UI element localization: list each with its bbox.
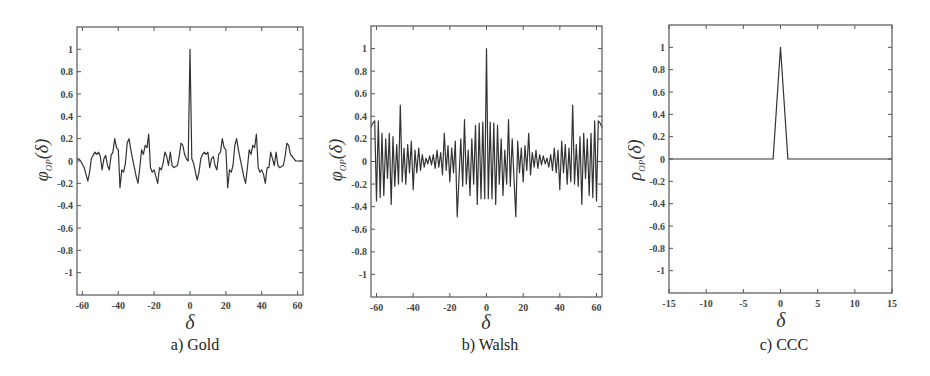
ccc-caption: c) CCC [760, 336, 808, 354]
x-tick-label: -40 [112, 300, 125, 311]
y-tick-label: -0.2 [57, 178, 73, 189]
y-tick-label: -1 [657, 265, 665, 276]
x-tick-label: -60 [76, 300, 89, 311]
y-tick-label: -0.8 [57, 245, 73, 256]
x-tick-label: -10 [699, 298, 712, 309]
y-tick-label: 1 [362, 43, 367, 54]
y-tick-label: 0.4 [61, 111, 74, 122]
x-tick-label: -60 [370, 302, 383, 313]
walsh-ylabel: φOP(δ) [326, 139, 348, 181]
walsh-curve [371, 49, 602, 217]
x-tick-label: -5 [739, 298, 747, 309]
y-tick-label: 0.8 [355, 66, 368, 77]
x-tick-label: 0 [778, 298, 783, 309]
y-tick-label: 0.6 [653, 87, 666, 98]
x-tick-label: 15 [887, 298, 897, 309]
ccc-ylabel: ρOP(δ) [625, 139, 647, 181]
gold-panel: -60-40-20020406010.80.60.40.20-0.2-0.4-0… [57, 27, 303, 311]
gold-xlabel: δ [185, 311, 195, 333]
y-tick-label: -0.6 [57, 223, 73, 234]
y-tick-label: -0.2 [351, 179, 367, 190]
y-tick-label: -1 [359, 269, 367, 280]
y-tick-label: -0.6 [649, 221, 665, 232]
y-tick-label: 1 [660, 42, 665, 53]
y-tick-label: -0.8 [351, 246, 367, 257]
x-tick-label: 40 [555, 302, 565, 313]
ccc-curve [669, 47, 892, 159]
y-tick-label: 1 [68, 44, 73, 55]
ccc-xlabel: δ [776, 309, 786, 331]
walsh-caption: b) Walsh [462, 336, 519, 354]
walsh-panel: -60-40-20020406010.80.60.40.20-0.2-0.4-0… [351, 26, 602, 313]
y-tick-label: -0.6 [351, 224, 367, 235]
gold-caption: a) Gold [171, 336, 219, 354]
x-tick-label: 20 [518, 302, 528, 313]
y-tick-label: 0.6 [61, 89, 74, 100]
y-tick-label: -0.4 [351, 201, 367, 212]
ccc-panel: -15-10-505101510.80.60.40.20-0.2-0.4-0.6… [649, 25, 897, 309]
x-tick-label: -40 [406, 302, 419, 313]
x-tick-label: 60 [293, 300, 303, 311]
y-tick-label: 0 [660, 154, 665, 165]
y-tick-label: -0.4 [57, 200, 73, 211]
x-tick-label: -20 [147, 300, 160, 311]
figure: -60-40-20020406010.80.60.40.20-0.2-0.4-0… [0, 0, 930, 376]
x-tick-label: 20 [221, 300, 231, 311]
y-tick-label: 0.4 [355, 111, 368, 122]
y-tick-label: 0.6 [355, 88, 368, 99]
gold-ylabel: φOP(δ) [32, 139, 54, 181]
x-tick-label: 0 [188, 300, 193, 311]
x-tick-label: -20 [443, 302, 456, 313]
y-tick-label: 0.2 [355, 133, 368, 144]
y-tick-label: 0 [68, 156, 73, 167]
y-tick-label: -1 [65, 267, 73, 278]
y-tick-label: 0 [362, 156, 367, 167]
x-tick-label: 40 [257, 300, 267, 311]
y-tick-label: -0.8 [649, 243, 665, 254]
y-tick-label: -0.2 [649, 176, 665, 187]
x-tick-label: 5 [815, 298, 820, 309]
x-tick-label: 10 [850, 298, 860, 309]
y-tick-label: 0.2 [61, 133, 74, 144]
y-tick-label: 0.4 [653, 109, 666, 120]
x-tick-label: -15 [662, 298, 675, 309]
y-tick-label: -0.4 [649, 198, 665, 209]
x-tick-label: 60 [592, 302, 602, 313]
walsh-xlabel: δ [481, 311, 491, 333]
y-tick-label: 0.2 [653, 131, 666, 142]
y-tick-label: 0.8 [61, 66, 74, 77]
y-tick-label: 0.8 [653, 64, 666, 75]
gold-curve [77, 49, 303, 188]
